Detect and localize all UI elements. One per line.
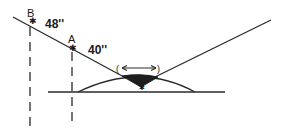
diagram-canvas: ✱ ✱ B 48'' ✱ A 40'' ( ): [0, 0, 281, 132]
point-a-label: A: [68, 33, 76, 45]
point-b-value: 48'': [45, 17, 64, 31]
arrow-left-paren: (: [116, 64, 119, 74]
arrow-right-paren: ): [157, 64, 160, 74]
wedge-star-icon: ✱: [139, 84, 145, 91]
point-a-value: 40'': [88, 43, 107, 57]
right-slope-line: [155, 20, 271, 77]
point-b-label: B: [27, 7, 34, 19]
